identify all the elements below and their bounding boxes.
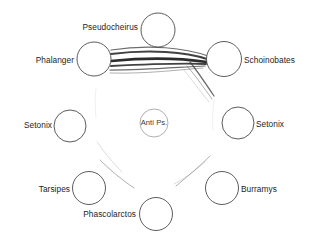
node-label-schoinobates: Schoinobates bbox=[244, 55, 295, 65]
node-circle-phascolarctos[interactable] bbox=[140, 198, 173, 231]
edge-schoinobates-down-3 bbox=[184, 70, 209, 102]
edge-setonix-right-down bbox=[213, 100, 214, 130]
node-circle-phalanger[interactable] bbox=[77, 42, 111, 76]
node-label-phascolarctos: Phascolarctos bbox=[83, 209, 136, 219]
node-circle-tarsipes[interactable] bbox=[73, 172, 106, 205]
node-label-pseudocheirus: Pseudocheirus bbox=[82, 22, 138, 32]
node-circle-schoinobates[interactable] bbox=[207, 42, 242, 77]
network-diagram: PseudocheirusPhalangerSchoinobatesSetoni… bbox=[0, 0, 310, 240]
node-circle-setonix-left[interactable] bbox=[54, 110, 86, 142]
edge-burramys-phascolarctos bbox=[176, 156, 210, 186]
edge-setonix-left-tarsipes bbox=[97, 142, 122, 172]
node-circle-burramys[interactable] bbox=[206, 172, 239, 205]
node-label-phalanger: Phalanger bbox=[36, 55, 74, 65]
node-label-anti-ps: Anti Ps. bbox=[141, 118, 168, 127]
node-label-setonix-left: Setonix bbox=[24, 120, 53, 130]
node-label-setonix-right: Setonix bbox=[256, 119, 285, 129]
diagram-canvas: PseudocheirusPhalangerSchoinobatesSetoni… bbox=[0, 0, 310, 240]
edge-schoinobates-down-2 bbox=[187, 66, 212, 99]
node-label-burramys: Burramys bbox=[241, 184, 277, 194]
node-label-tarsipes: Tarsipes bbox=[39, 184, 70, 194]
edge-phalanger-setonix-left bbox=[95, 88, 96, 118]
node-circle-pseudocheirus[interactable] bbox=[141, 13, 175, 47]
node-circle-setonix-right[interactable] bbox=[222, 107, 254, 139]
edge-phalanger-schoinobates-3 bbox=[111, 59, 207, 62]
